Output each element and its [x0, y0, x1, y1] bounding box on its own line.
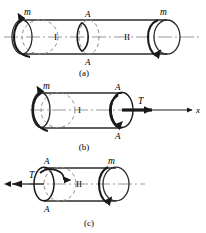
panel-b: m T x I A A (b)	[30, 81, 200, 152]
panel-b-internal-torque-label: T	[138, 96, 144, 106]
panel-c-section-label-bottom: A	[43, 204, 50, 214]
panel-b-caption: (b)	[79, 142, 90, 152]
panel-a-caption: (a)	[79, 68, 89, 78]
figure-root: m m I II A A (a)	[0, 0, 206, 233]
panel-c-section-label-top: A	[43, 156, 50, 166]
panel-c-segment-label: II	[76, 179, 82, 189]
torsion-figure-svg: m m I II A A (a)	[0, 0, 206, 233]
panel-c-right-torque-label: m	[108, 156, 115, 166]
panel-c-torque-vector-head-inner	[12, 180, 22, 187]
panel-b-segment-label: I	[78, 105, 81, 115]
panel-a-right-torque-label: m	[160, 7, 167, 17]
panel-b-section-label-bottom: A	[114, 131, 121, 141]
panel-a: m m I II A A (a)	[4, 7, 202, 78]
panel-a-right-torque-arrow	[148, 20, 158, 56]
panel-c-internal-torque-label: T	[29, 170, 35, 180]
panel-a-segment-ii-label: II	[124, 32, 130, 42]
panel-b-x-axis-label: x	[195, 105, 200, 115]
panel-a-section-label-bottom: A	[84, 57, 91, 67]
panel-c-torque-vector-head-outer	[4, 181, 11, 187]
panel-a-section-label-top: A	[84, 9, 91, 19]
panel-c-caption: (c)	[84, 218, 94, 228]
panel-a-segment-i-label: I	[54, 32, 57, 42]
panel-a-left-torque-label: m	[24, 7, 31, 17]
panel-b-section-label-top: A	[114, 82, 121, 92]
panel-b-left-torque-label: m	[43, 81, 50, 91]
panel-c: T m II A A (c)	[4, 156, 145, 228]
